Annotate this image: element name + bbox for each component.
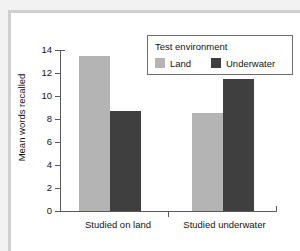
- y-axis-title: Mean words recalled: [16, 53, 27, 183]
- legend-swatch-land: [155, 58, 165, 68]
- y-tick-14: [55, 50, 60, 51]
- legend-title: Test environment: [155, 41, 227, 52]
- y-tick-label-0: 0: [14, 206, 52, 216]
- bar-studied-underwater-underwater: [223, 79, 254, 211]
- bar-studied-on-land-underwater: [110, 111, 141, 211]
- legend-label-underwater: Underwater: [226, 58, 275, 69]
- bar-studied-on-land-land: [79, 56, 110, 211]
- legend: Test environment Land Underwater: [147, 35, 293, 75]
- legend-entry-land: Land: [155, 57, 191, 69]
- y-tick-10: [55, 96, 60, 97]
- legend-entry-underwater: Underwater: [211, 57, 275, 69]
- category-separator-tick: [168, 211, 169, 217]
- legend-swatch-underwater: [211, 58, 221, 68]
- x-axis-label-studied-on-land: Studied on land: [68, 219, 168, 230]
- x-axis-label-studied-underwater: Studied underwater: [172, 219, 277, 230]
- bar-studied-underwater-land: [192, 113, 223, 211]
- y-tick-6: [55, 142, 60, 143]
- y-tick-12: [55, 73, 60, 74]
- y-tick-4: [55, 165, 60, 166]
- bar-chart-figure: 0 2 4 6 8 10 12 14 Mean words recalled S…: [0, 0, 300, 251]
- y-tick-0: [55, 211, 60, 212]
- y-tick-8: [55, 119, 60, 120]
- y-tick-label-2: 2: [14, 183, 52, 193]
- y-tick-2: [55, 188, 60, 189]
- screenshot-page: 0 2 4 6 8 10 12 14 Mean words recalled S…: [0, 0, 300, 251]
- legend-label-land: Land: [170, 58, 191, 69]
